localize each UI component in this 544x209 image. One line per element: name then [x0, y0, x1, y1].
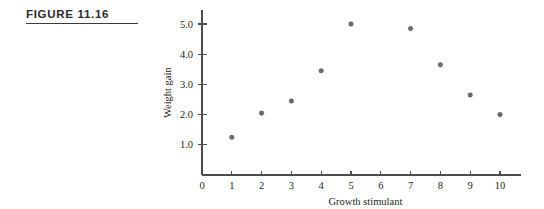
- y-tick-label: 1.0: [180, 139, 193, 150]
- y-tick-label: 5.0: [180, 19, 193, 30]
- data-point: [349, 22, 354, 27]
- data-point: [259, 111, 264, 116]
- data-point: [408, 26, 413, 31]
- data-point: [498, 112, 503, 117]
- x-tick-label: 6: [378, 180, 383, 191]
- data-point: [289, 99, 294, 104]
- figure-container: FIGURE 11.16 1.02.03.04.05.0 01234567891…: [0, 0, 544, 209]
- x-tick-label: 8: [438, 180, 443, 191]
- data-point: [319, 69, 324, 74]
- x-tick-label: 5: [348, 180, 353, 191]
- x-tick-label: 3: [289, 180, 294, 191]
- x-tick-label: 0: [199, 180, 204, 191]
- x-tick-label: 4: [319, 180, 325, 191]
- data-point: [438, 62, 443, 67]
- x-tick-label: 1: [229, 180, 234, 191]
- data-points: [230, 22, 503, 140]
- data-point: [468, 93, 473, 98]
- y-tick-label: 2.0: [180, 109, 193, 120]
- data-point: [230, 135, 235, 140]
- x-tick-label: 2: [259, 180, 264, 191]
- y-tick-label: 3.0: [180, 79, 193, 90]
- y-tick-label: 4.0: [180, 49, 193, 60]
- scatter-plot: 1.02.03.04.05.0 012345678910 Growth stim…: [0, 0, 544, 209]
- x-axis-ticks: 012345678910: [199, 171, 505, 192]
- x-axis-title: Growth stimulant: [329, 196, 403, 207]
- x-tick-label: 7: [408, 180, 413, 191]
- x-tick-label: 9: [468, 180, 473, 191]
- x-tick-label: 10: [495, 180, 506, 191]
- y-axis-title: Weight gain: [162, 67, 173, 119]
